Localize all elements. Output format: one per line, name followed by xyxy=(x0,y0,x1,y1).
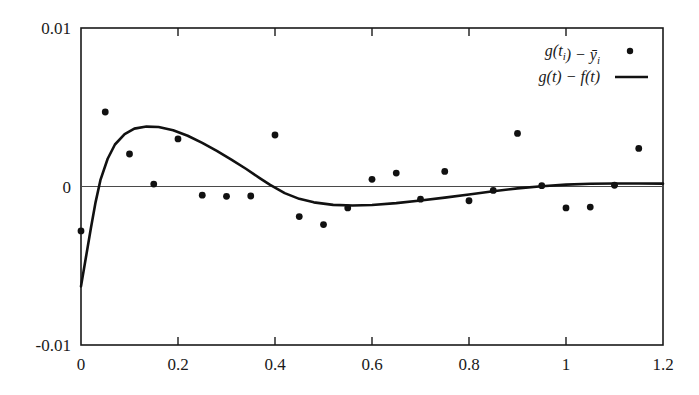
data-point-14 xyxy=(417,196,424,203)
data-point-12 xyxy=(369,176,376,183)
data-point-19 xyxy=(538,182,545,189)
legend-marker-dot xyxy=(627,48,633,54)
data-point-20 xyxy=(563,205,570,212)
data-point-6 xyxy=(223,193,230,200)
y-tick-label-0: 0.01 xyxy=(41,19,71,38)
data-point-23 xyxy=(635,145,642,152)
chart-figure: 00.20.40.60.811.2 0.010-0.01 g(ti) − ȳi … xyxy=(0,0,699,395)
data-point-16 xyxy=(466,197,473,204)
data-point-4 xyxy=(175,136,182,143)
data-point-17 xyxy=(490,187,497,194)
data-point-18 xyxy=(514,130,521,137)
data-point-21 xyxy=(587,204,594,211)
data-point-11 xyxy=(344,205,351,212)
x-tick-label-1: 0.2 xyxy=(167,355,188,374)
data-point-15 xyxy=(441,168,448,175)
y-tick-label-2: -0.01 xyxy=(36,336,71,355)
data-point-2 xyxy=(126,151,133,158)
data-point-5 xyxy=(199,192,206,199)
residual-scatter-plot: 00.20.40.60.811.2 0.010-0.01 g(ti) − ȳi … xyxy=(0,0,699,395)
data-point-13 xyxy=(393,170,400,177)
y-tick-label-1: 0 xyxy=(63,178,72,197)
x-tick-label-4: 0.8 xyxy=(458,355,479,374)
data-point-7 xyxy=(247,193,254,200)
x-tick-label-5: 1 xyxy=(562,355,571,374)
data-point-3 xyxy=(150,181,157,188)
data-point-10 xyxy=(320,221,327,228)
data-point-8 xyxy=(272,132,279,139)
data-point-1 xyxy=(102,109,109,116)
x-tick-label-6: 1.2 xyxy=(652,355,673,374)
x-tick-label-2: 0.4 xyxy=(264,355,286,374)
legend-label-difference-curve: g(t) − f(t) xyxy=(539,68,600,86)
x-tick-label-0: 0 xyxy=(77,355,86,374)
data-point-0 xyxy=(78,227,85,234)
data-point-22 xyxy=(611,182,618,189)
data-point-9 xyxy=(296,213,303,220)
x-tick-label-3: 0.6 xyxy=(361,355,382,374)
